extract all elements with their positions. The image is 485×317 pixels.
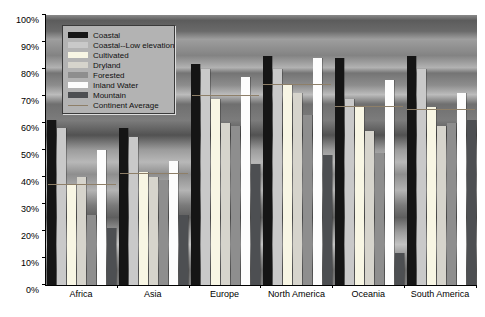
bar-dryland (221, 123, 230, 285)
legend-swatch-box (68, 72, 88, 78)
bar-coastal-low-elevation (201, 69, 210, 285)
y-tick-label: 60% (21, 123, 39, 133)
bar-coastal (47, 120, 56, 285)
bar-coastal-low-elevation (273, 69, 282, 285)
bar-inland-water (241, 77, 250, 285)
continent-average-line (48, 184, 116, 185)
bar-forested (447, 123, 456, 285)
x-axis-label: Oceania (332, 289, 404, 299)
y-tick-mark (42, 149, 46, 150)
legend-swatch-box (68, 92, 88, 98)
y-tick-label: 50% (21, 150, 39, 160)
x-axis-label: Europe (189, 289, 261, 299)
legend-label: Inland Water (93, 81, 138, 90)
bar-dryland (293, 93, 302, 285)
bar-mountain (179, 215, 188, 285)
legend-swatch-box (68, 32, 88, 38)
x-axis-label: North America (260, 289, 332, 299)
y-tick-mark (42, 203, 46, 204)
y-tick-label: 40% (21, 177, 39, 187)
bar-dryland (365, 131, 374, 285)
bar-cultivated (211, 99, 220, 285)
legend-label: Forested (93, 71, 125, 80)
bar-mountain (107, 228, 116, 285)
bar-coastal-low-elevation (57, 128, 66, 285)
bars (261, 15, 333, 285)
bar-cultivated (139, 172, 148, 285)
legend-row: Dryland (68, 60, 169, 70)
bar-cultivated (67, 185, 76, 285)
x-tick-mark (117, 285, 118, 288)
y-tick-mark (42, 68, 46, 69)
legend-swatch-box (68, 52, 88, 58)
legend-row: Coastal (68, 30, 169, 40)
y-tick-mark (42, 284, 46, 285)
bar-coastal (335, 58, 344, 285)
x-axis-label: Asia (117, 289, 189, 299)
y-tick-label: 10% (21, 258, 39, 268)
bar-coastal (263, 56, 272, 286)
bar-inland-water (169, 161, 178, 285)
y-tick-mark (42, 122, 46, 123)
bar-coastal (119, 128, 128, 285)
y-tick-label: 80% (21, 69, 39, 79)
x-tick-mark (476, 285, 477, 288)
bar-forested (87, 215, 96, 285)
bar-coastal-low-elevation (129, 137, 138, 286)
y-tick-mark (42, 14, 46, 15)
continent-average-line (120, 173, 188, 174)
y-tick-mark (42, 95, 46, 96)
x-axis-label: South America (404, 289, 476, 299)
continent-average-line (335, 106, 403, 107)
x-tick-mark (189, 285, 190, 288)
bar-mountain (323, 155, 332, 285)
y-tick-label: 70% (21, 96, 39, 106)
bars (333, 15, 405, 285)
y-tick-mark (42, 257, 46, 258)
bar-group-north-america (261, 15, 333, 285)
legend-swatch-box (68, 42, 88, 48)
legend-label: Cultivated (93, 51, 129, 60)
bar-cultivated (283, 85, 292, 285)
bar-mountain (251, 164, 260, 286)
legend-swatch-box (68, 82, 88, 88)
bar-inland-water (385, 80, 394, 285)
bar-inland-water (313, 58, 322, 285)
bar-coastal-low-elevation (417, 69, 426, 285)
bar-dryland (437, 126, 446, 285)
bar-forested (303, 115, 312, 285)
bars (405, 15, 477, 285)
bar-dryland (149, 177, 158, 285)
legend-label: Continent Average (93, 101, 159, 110)
legend-row: Continent Average (68, 100, 169, 110)
legend: CoastalCoastal--Low elevationCultivatedD… (62, 25, 175, 114)
bar-inland-water (97, 150, 106, 285)
legend-row: Forested (68, 70, 169, 80)
y-tick-label: 30% (21, 204, 39, 214)
continent-average-line (192, 95, 260, 96)
bar-inland-water (457, 93, 466, 285)
legend-row: Coastal--Low elevation (68, 40, 169, 50)
legend-row: Inland Water (68, 80, 169, 90)
continent-average-line (407, 109, 475, 110)
continent-average-line (263, 84, 331, 85)
x-axis-label: Africa (45, 289, 117, 299)
legend-label: Coastal--Low elevation (93, 41, 174, 50)
y-tick-mark (42, 176, 46, 177)
y-tick-label: 20% (21, 231, 39, 241)
legend-swatch-line (68, 105, 88, 106)
x-tick-mark (260, 285, 261, 288)
legend-row: Mountain (68, 90, 169, 100)
y-tick-label: 100% (16, 15, 39, 25)
x-axis-labels: AfricaAsiaEuropeNorth AmericaOceaniaSout… (45, 289, 476, 299)
y-tick-label: 90% (21, 42, 39, 52)
bar-coastal-low-elevation (345, 99, 354, 285)
bar-forested (231, 126, 240, 285)
bar-dryland (77, 177, 86, 285)
legend-label: Mountain (93, 91, 126, 100)
bar-forested (159, 180, 168, 285)
bar-coastal (407, 56, 416, 286)
y-tick-mark (42, 230, 46, 231)
bar-cultivated (427, 107, 436, 285)
legend-label: Coastal (93, 31, 120, 40)
